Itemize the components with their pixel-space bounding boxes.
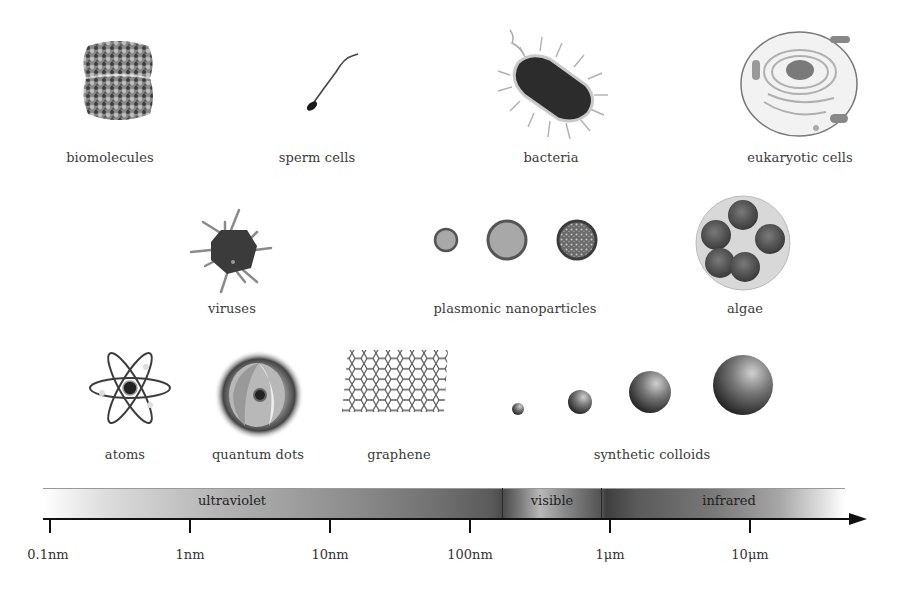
tick-1um: [609, 519, 611, 533]
label-atoms: atoms: [105, 447, 145, 462]
label-graphene: graphene: [367, 447, 431, 462]
band-label-ultraviolet: ultraviolet: [198, 493, 266, 508]
eukaryotic-cell-icon: [738, 28, 860, 140]
tick-label-100nm: 100nm: [447, 547, 493, 562]
label-algae: algae: [727, 301, 763, 316]
axis-arrowhead-icon: [849, 513, 867, 525]
graphene-lattice-icon: [340, 348, 452, 414]
label-biomolecules: biomolecules: [66, 150, 154, 165]
label-plasmonic-nanoparticles: plasmonic nanoparticles: [433, 301, 596, 316]
tick-label-1um: 1μm: [595, 547, 624, 562]
label-synthetic-colloids: synthetic colloids: [594, 447, 711, 462]
band-label-visible: visible: [531, 493, 574, 508]
tick-0-1nm: [49, 519, 51, 533]
length-axis: [43, 518, 851, 520]
visible-infrared-divider: [601, 488, 602, 518]
label-quantum-dots: quantum dots: [212, 447, 304, 462]
tick-label-10nm: 10nm: [311, 547, 348, 562]
tick-100nm: [469, 519, 471, 533]
tick-label-10um: 10μm: [731, 547, 768, 562]
protein-structure-icon: [78, 38, 158, 123]
algae-colony-icon: [693, 193, 793, 293]
virus-icon: [185, 200, 280, 295]
tick-label-0-1nm: 0.1nm: [27, 547, 68, 562]
sperm-cell-icon: [300, 50, 360, 115]
label-eukaryotic-cells: eukaryotic cells: [747, 150, 852, 165]
label-bacteria: bacteria: [523, 150, 578, 165]
colloid-spheres-icon: [505, 352, 785, 418]
quantum-dot-icon: [213, 350, 305, 440]
label-viruses: viruses: [208, 301, 256, 316]
tick-label-1nm: 1nm: [176, 547, 205, 562]
tick-1nm: [189, 519, 191, 533]
band-label-infrared: infrared: [702, 493, 756, 508]
nanoparticle-circles-icon: [430, 218, 610, 268]
tick-10um: [749, 519, 751, 533]
label-sperm-cells: sperm cells: [279, 150, 355, 165]
tick-10nm: [329, 519, 331, 533]
uv-visible-divider: [502, 488, 503, 518]
atom-icon: [88, 355, 172, 421]
bacterium-icon: [490, 25, 610, 145]
